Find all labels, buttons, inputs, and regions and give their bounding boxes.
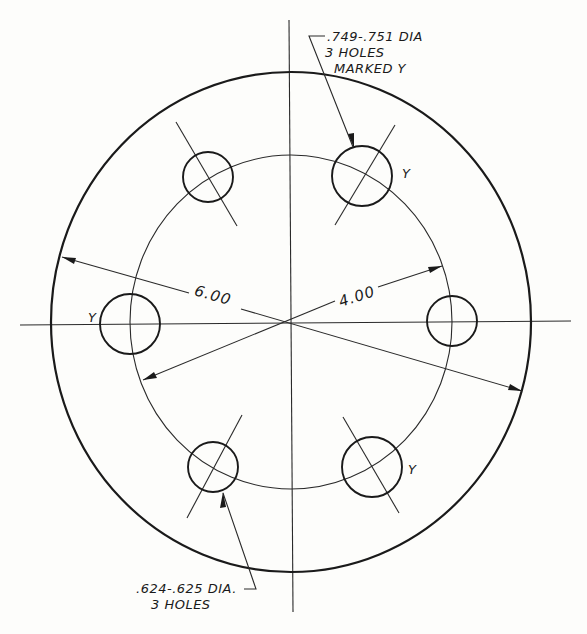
vertical-centerline — [289, 20, 293, 612]
radial-line-lower-right — [343, 417, 399, 513]
dim-line-6-upper — [62, 257, 189, 293]
dim-text-6: 6.00 — [192, 281, 233, 309]
radial-line-upper-left — [176, 122, 237, 226]
note-small-line2: 3 HOLES — [151, 597, 211, 612]
hole-small-lower-left — [188, 442, 238, 492]
marker-lower-right: Y — [408, 462, 417, 477]
leader-small-holes — [223, 493, 256, 589]
arrow-6-right — [508, 384, 522, 391]
marker-left: Y — [88, 310, 97, 325]
radial-line-upper-right — [335, 125, 395, 225]
note-large-line1: .749-.751 DIA — [327, 29, 423, 44]
hole-large-upper-right — [332, 146, 392, 206]
dim-line-4-lower — [143, 301, 335, 380]
note-large-holes: .749-.751 DIA 3 HOLES MARKED Y — [309, 29, 423, 148]
note-small-line1: .624-.625 DIA. — [136, 581, 237, 596]
centerlines — [20, 20, 571, 612]
leader-arrow-large-holes — [348, 133, 354, 148]
dim-text-4: 4.00 — [336, 282, 377, 311]
technical-drawing: Y Y Y 6.00 4.00 .749-.751 DIA 3 HOLES MA… — [0, 0, 587, 634]
holes — [100, 146, 477, 497]
radial-line-lower-left — [187, 415, 242, 518]
note-large-line2: 3 HOLES — [325, 45, 385, 60]
arrow-6-left — [62, 257, 76, 264]
arrow-4-left — [143, 372, 157, 380]
arrow-4-right — [428, 266, 442, 273]
marker-upper-right: Y — [402, 166, 411, 181]
note-large-line3: MARKED Y — [334, 61, 407, 76]
